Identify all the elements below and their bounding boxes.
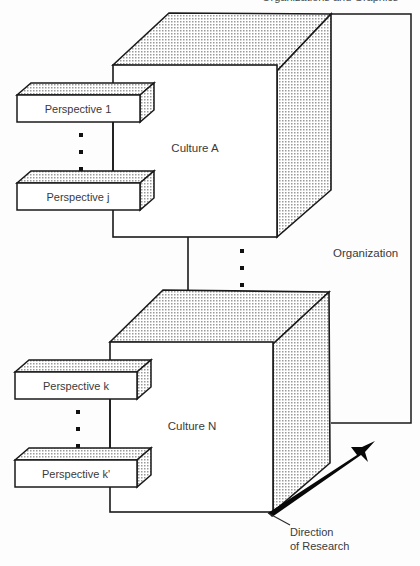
- slab-perspective-k-prime-top-face: [15, 448, 151, 460]
- slab-perspective-k-top-face: [15, 360, 151, 372]
- slab-perspective-k-label: Perspective k: [43, 380, 110, 392]
- ellipsis-dot: [79, 150, 83, 154]
- slab-perspective-j: Perspective j: [17, 171, 154, 210]
- ellipsis-upper-perspectives: [79, 133, 83, 171]
- direction-label-line-1: Direction: [290, 526, 333, 538]
- ellipsis-dot: [76, 410, 80, 414]
- slab-perspective-1: Perspective 1: [17, 83, 154, 122]
- organization-label: Organization: [333, 247, 398, 259]
- direction-label-line-2: of Research: [290, 540, 349, 552]
- slab-perspective-j-top-face: [17, 171, 154, 183]
- ellipsis-dot: [240, 249, 244, 253]
- ellipsis-lower-perspectives: [76, 410, 80, 448]
- ellipsis-between-cultures: [240, 249, 244, 287]
- slab-perspective-k-prime-label: Perspective k': [42, 468, 110, 480]
- cube-culture-n-label: Culture N: [168, 420, 217, 432]
- slab-perspective-j-label: Perspective j: [47, 191, 110, 203]
- cube-culture-a-label: Culture A: [171, 142, 219, 154]
- slab-perspective-k-prime: Perspective k': [15, 448, 151, 487]
- scene-svg: Culture A Culture N Perspective 1: [0, 0, 420, 566]
- ellipsis-dot: [79, 133, 83, 137]
- slab-perspective-1-top-face: [17, 83, 154, 95]
- slab-perspective-1-label: Perspective 1: [45, 103, 112, 115]
- organization-outline: [331, 14, 411, 423]
- organization-bracket: [331, 14, 411, 423]
- arrow-leader-line: [268, 513, 290, 525]
- ellipsis-dot: [240, 283, 244, 287]
- ellipsis-dot: [240, 266, 244, 270]
- slab-perspective-k: Perspective k: [15, 360, 151, 399]
- diagram-canvas: Organizations and Graphics Culture A: [0, 0, 420, 566]
- ellipsis-dot: [76, 427, 80, 431]
